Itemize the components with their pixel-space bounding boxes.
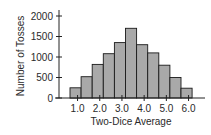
bar-1.0 xyxy=(70,88,81,98)
y-tick-label: 0 xyxy=(47,93,53,104)
x-tick-label: 6.0 xyxy=(182,103,196,114)
bar-4.0 xyxy=(137,45,148,98)
y-axis-title: Number of Tosses xyxy=(15,16,26,96)
x-tick-label: 5.0 xyxy=(159,103,173,114)
y-tick-label: 1500 xyxy=(31,31,54,42)
x-tick-label: 1.0 xyxy=(71,103,85,114)
bar-6.0 xyxy=(181,88,192,98)
bar-3.0 xyxy=(114,43,125,98)
y-ticks: 0500100015002000 xyxy=(31,11,62,104)
bar-5.5 xyxy=(170,78,181,99)
bar-3.5 xyxy=(126,28,137,98)
x-tick-label: 2.0 xyxy=(93,103,107,114)
bar-1.5 xyxy=(81,77,92,98)
bar-4.5 xyxy=(148,53,159,98)
y-tick-label: 2000 xyxy=(31,11,54,22)
bar-5.0 xyxy=(159,65,170,98)
bar-2.5 xyxy=(103,54,114,98)
y-tick-label: 500 xyxy=(36,72,53,83)
x-tick-label: 3.0 xyxy=(115,103,129,114)
histogram-chart: 0500100015002000 1.02.03.04.05.06.0 Two-… xyxy=(0,0,211,135)
bars xyxy=(70,28,192,98)
bar-2.0 xyxy=(92,64,103,98)
x-tick-label: 4.0 xyxy=(137,103,151,114)
x-axis-title: Two-Dice Average xyxy=(91,116,172,127)
y-tick-label: 1000 xyxy=(31,52,54,63)
